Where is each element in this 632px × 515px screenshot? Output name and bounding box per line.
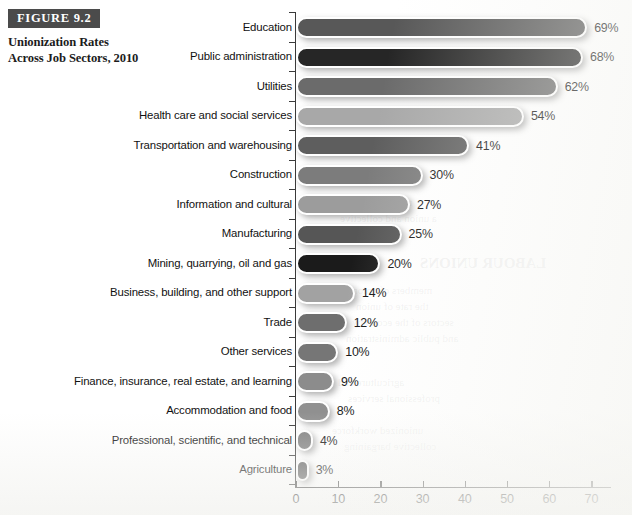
bar xyxy=(296,224,402,245)
value-tick-label: 70 xyxy=(585,492,599,506)
category-tick xyxy=(289,219,295,220)
category-tick xyxy=(289,396,295,397)
bar-value-label: 3% xyxy=(316,464,334,476)
bar xyxy=(296,17,587,38)
category-label: Professional, scientific, and technical xyxy=(112,435,292,446)
bar xyxy=(296,135,469,156)
bar-value-label: 9% xyxy=(341,376,359,388)
bar-value-label: 30% xyxy=(430,169,454,181)
bar-value-label: 8% xyxy=(337,405,355,417)
bar xyxy=(296,401,330,422)
value-axis-line xyxy=(295,487,611,488)
bar xyxy=(296,76,558,97)
category-label: Construction xyxy=(230,169,292,180)
bar-value-label: 54% xyxy=(531,110,555,122)
bar-value-label: 25% xyxy=(409,228,433,240)
category-tick xyxy=(289,278,295,279)
category-tick xyxy=(289,12,295,13)
bar xyxy=(296,460,309,481)
bar-value-label: 69% xyxy=(594,22,618,34)
value-tick xyxy=(380,481,381,487)
bar-value-label: 62% xyxy=(565,81,589,93)
value-tick-label: 20 xyxy=(374,492,388,506)
bar xyxy=(296,165,423,186)
category-label: Trade xyxy=(263,317,292,328)
category-label: Public administration xyxy=(190,51,292,62)
category-label: Information and cultural xyxy=(177,199,292,210)
bar-value-label: 68% xyxy=(590,51,614,63)
bar-value-label: 12% xyxy=(354,317,378,329)
bar xyxy=(296,47,583,68)
category-label: Transportation and warehousing xyxy=(134,140,292,151)
value-tick xyxy=(549,481,550,487)
value-tick xyxy=(507,481,508,487)
category-label: Mining, quarrying, oil and gas xyxy=(148,258,292,269)
figure-number-badge: FIGURE 9.2 xyxy=(8,9,100,28)
category-tick xyxy=(289,425,295,426)
category-label: Agriculture xyxy=(239,464,292,475)
bar xyxy=(296,371,334,392)
category-label: Finance, insurance, real estate, and lea… xyxy=(74,376,292,387)
bar-value-label: 10% xyxy=(345,346,369,358)
bar xyxy=(296,194,410,215)
category-label: Other services xyxy=(221,346,292,357)
category-tick xyxy=(289,307,295,308)
category-tick xyxy=(289,337,295,338)
bar xyxy=(296,312,347,333)
bar-value-label: 27% xyxy=(417,199,441,211)
figure-caption-block: FIGURE 9.2 Unionization Rates Across Job… xyxy=(8,8,140,66)
bar-value-label: 14% xyxy=(362,287,386,299)
category-label: Accommodation and food xyxy=(166,405,292,416)
category-label: Education xyxy=(243,22,292,33)
value-tick-label: 40 xyxy=(458,492,472,506)
value-tick xyxy=(591,481,592,487)
category-tick xyxy=(289,248,295,249)
category-tick xyxy=(289,484,295,485)
value-tick-label: 0 xyxy=(293,492,300,506)
category-label: Health care and social services xyxy=(139,110,292,121)
bar-chart: 69%68%62%54%41%30%27%25%20%14%12%10%9%8%… xyxy=(0,0,632,515)
value-tick-label: 60 xyxy=(542,492,556,506)
bar xyxy=(296,430,313,451)
value-tick-label: 30 xyxy=(416,492,430,506)
category-tick xyxy=(289,189,295,190)
category-tick xyxy=(289,101,295,102)
category-tick xyxy=(289,455,295,456)
value-tick xyxy=(338,481,339,487)
bar-value-label: 41% xyxy=(476,140,500,152)
bar-value-label: 20% xyxy=(387,258,411,270)
value-tick-label: 10 xyxy=(331,492,345,506)
category-tick xyxy=(289,71,295,72)
bar-value-label: 4% xyxy=(320,435,338,447)
category-label: Manufacturing xyxy=(222,228,292,239)
value-tick xyxy=(296,481,297,487)
value-tick-label: 50 xyxy=(500,492,514,506)
bar xyxy=(296,342,338,363)
bar xyxy=(296,283,355,304)
bar xyxy=(296,106,524,127)
category-label: Utilities xyxy=(257,81,292,92)
bar xyxy=(296,253,380,274)
value-tick xyxy=(423,481,424,487)
category-label: Business, building, and other support xyxy=(110,287,292,298)
category-tick xyxy=(289,42,295,43)
category-tick xyxy=(289,366,295,367)
category-tick xyxy=(289,130,295,131)
value-tick xyxy=(465,481,466,487)
category-tick xyxy=(289,160,295,161)
figure-title: Unionization Rates Across Job Sectors, 2… xyxy=(8,34,140,66)
